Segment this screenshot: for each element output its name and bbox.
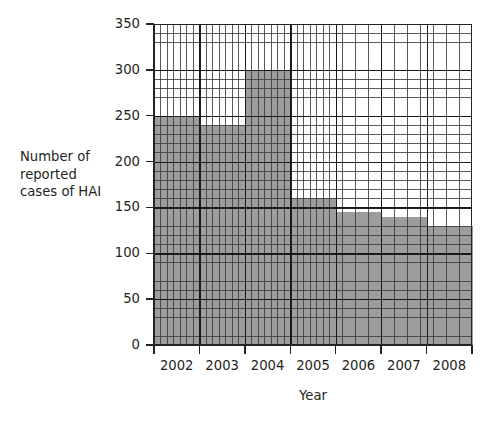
y-tick-label-300: 300 xyxy=(100,63,140,76)
y-axis-title-line-3: cases of HAI xyxy=(20,183,120,201)
x-tick-4 xyxy=(335,346,336,354)
y-tick-label-50: 50 xyxy=(100,292,140,305)
y-tick-300 xyxy=(146,69,154,70)
y-tick-100 xyxy=(146,253,154,254)
bar-chart-figure: Number of reported cases of HAI 35030025… xyxy=(0,0,495,424)
x-tick-1 xyxy=(199,346,200,354)
plot-area xyxy=(154,24,472,345)
x-tick-3 xyxy=(290,346,291,354)
bar-2006 xyxy=(336,212,382,345)
x-tick-7 xyxy=(471,346,472,354)
bar-series xyxy=(154,24,472,345)
x-tick-5 xyxy=(380,346,381,354)
y-tick-label-250: 250 xyxy=(100,109,140,122)
y-tick-150 xyxy=(146,207,154,208)
y-tick-label-100: 100 xyxy=(100,246,140,259)
y-tick-350 xyxy=(146,23,154,24)
x-tick-6 xyxy=(426,346,427,354)
x-tick-0 xyxy=(153,346,154,354)
y-tick-label-200: 200 xyxy=(100,155,140,168)
bar-2004 xyxy=(245,70,291,345)
bar-2005 xyxy=(290,198,336,345)
x-axis-title: Year xyxy=(154,388,472,403)
y-tick-label-0: 0 xyxy=(100,338,140,351)
x-tick-2 xyxy=(244,346,245,354)
y-tick-label-150: 150 xyxy=(100,200,140,213)
bar-2002 xyxy=(154,116,200,345)
bar-2007 xyxy=(381,217,427,345)
x-tick-label-2008: 2008 xyxy=(422,358,476,373)
y-tick-250 xyxy=(146,115,154,116)
y-tick-200 xyxy=(146,161,154,162)
y-tick-label-350: 350 xyxy=(100,17,140,30)
y-tick-50 xyxy=(146,298,154,299)
bar-2003 xyxy=(199,125,245,345)
bar-2008 xyxy=(427,226,473,345)
